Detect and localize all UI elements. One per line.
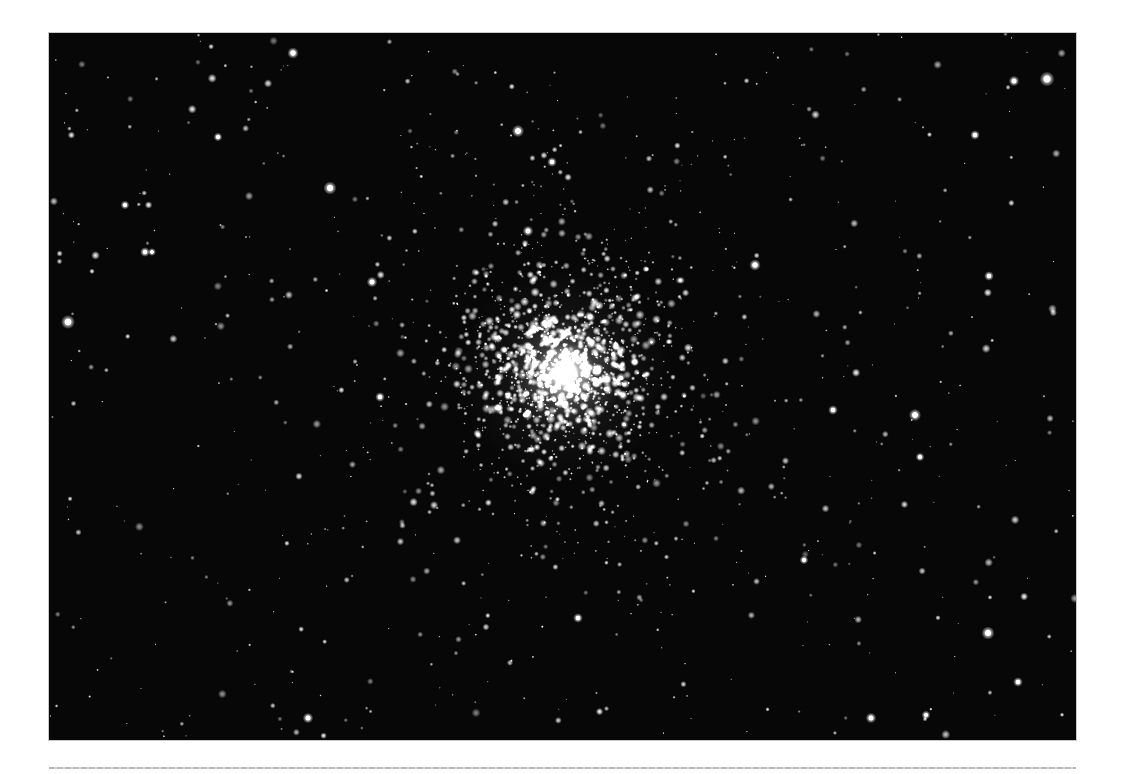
star-cluster-photo-canvas xyxy=(49,33,1076,740)
page-footer-rule xyxy=(49,767,1076,769)
page xyxy=(0,0,1122,774)
star-cluster-photograph xyxy=(49,33,1076,740)
